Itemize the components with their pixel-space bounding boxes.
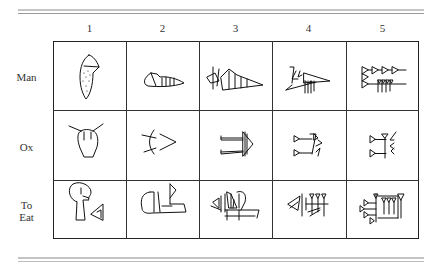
- ox-stage-3-early-cuneiform-icon: [199, 110, 272, 180]
- row-label-to-eat: To Eat: [0, 199, 53, 223]
- cell-ox-4: [272, 110, 345, 180]
- top-rule-thick: [18, 9, 424, 11]
- eat-stage-5-late-cuneiform-icon: [346, 180, 419, 239]
- eat-stage-2-rotated-pictograph-icon: [126, 180, 199, 239]
- ox-stage-1-pictograph-icon: [53, 110, 126, 180]
- man-stage-5-late-cuneiform-icon: [346, 41, 419, 110]
- row-label-ox: Ox: [0, 141, 53, 153]
- cell-eat-5: [346, 180, 419, 239]
- cell-ox-3: [199, 110, 272, 180]
- row-label-to-eat-line1: To: [0, 199, 53, 211]
- row-label-man: Man: [0, 71, 53, 83]
- cell-man-3: [199, 41, 272, 110]
- column-header-4: 4: [272, 22, 345, 34]
- bottom-rule-thin: [18, 261, 424, 262]
- cell-man-2: [126, 41, 199, 110]
- cell-eat-3: [199, 180, 272, 239]
- eat-stage-3-early-cuneiform-icon: [199, 180, 272, 239]
- cell-eat-2: [126, 180, 199, 239]
- top-rule-thin: [18, 13, 424, 14]
- column-header-2: 2: [126, 22, 199, 34]
- eat-stage-4-cuneiform-icon: [272, 180, 345, 239]
- row-label-to-eat-line2: Eat: [0, 211, 53, 223]
- man-stage-3-early-cuneiform-icon: [199, 41, 272, 110]
- man-stage-4-cuneiform-icon: [272, 41, 345, 110]
- column-header-5: 5: [346, 22, 419, 34]
- column-header-1: 1: [53, 22, 126, 34]
- cell-man-5: [346, 41, 419, 110]
- man-stage-1-pictograph-icon: [53, 41, 126, 110]
- cell-eat-1: [53, 180, 126, 239]
- ox-stage-2-rotated-pictograph-icon: [126, 110, 199, 180]
- cell-eat-4: [272, 180, 345, 239]
- cell-ox-5: [346, 110, 419, 180]
- cell-ox-1: [53, 110, 126, 180]
- eat-stage-1-pictograph-icon: [53, 180, 126, 239]
- man-stage-2-rotated-pictograph-icon: [126, 41, 199, 110]
- column-header-3: 3: [199, 22, 272, 34]
- ox-stage-5-late-cuneiform-icon: [346, 110, 419, 180]
- cell-man-4: [272, 41, 345, 110]
- ox-stage-4-cuneiform-icon: [272, 110, 345, 180]
- cell-ox-2: [126, 110, 199, 180]
- cell-man-1: [53, 41, 126, 110]
- bottom-rule-thick: [18, 257, 424, 259]
